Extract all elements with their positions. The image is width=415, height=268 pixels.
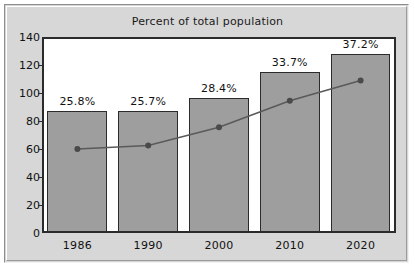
x-axis-tick-label-1986: 1986 <box>63 239 92 252</box>
bar-2020 <box>331 54 391 232</box>
y-axis-tick-mark <box>38 65 43 66</box>
y-axis-tick-label: 40 <box>6 171 40 184</box>
chart-panel: Percent of total population 020406080100… <box>4 4 409 263</box>
y-axis-tick-label: 80 <box>6 115 40 128</box>
y-axis-tick-label: 140 <box>6 31 40 44</box>
y-axis-tick-mark <box>38 121 43 122</box>
chart-title: Percent of total population <box>5 15 410 28</box>
bar-value-label-2010: 33.7% <box>272 56 308 69</box>
y-axis-tick-mark <box>38 177 43 178</box>
y-axis-tick-label: 100 <box>6 87 40 100</box>
y-axis: 020406080100120140 <box>5 5 40 264</box>
bar-2000 <box>189 98 249 232</box>
bar-value-label-2020: 37.2% <box>343 38 379 51</box>
x-axis-tick-label-1990: 1990 <box>134 239 163 252</box>
x-axis-tick-label-2020: 2020 <box>346 239 375 252</box>
bar-value-label-2000: 28.4% <box>201 82 237 95</box>
bar-1986 <box>47 111 107 232</box>
x-axis-tick-label-2010: 2010 <box>275 239 304 252</box>
y-axis-tick-label: 120 <box>6 59 40 72</box>
y-axis-tick-mark <box>38 93 43 94</box>
y-axis-tick-mark <box>38 205 43 206</box>
x-axis-tick-label-2000: 2000 <box>204 239 233 252</box>
bar-value-label-1986: 25.8% <box>59 95 95 108</box>
y-axis-tick-label: 60 <box>6 143 40 156</box>
y-axis-tick-label: 0 <box>6 227 40 240</box>
bar-1990 <box>118 111 178 232</box>
chart-canvas: Percent of total population 020406080100… <box>5 5 410 264</box>
bar-2010 <box>260 72 320 232</box>
bar-value-label-1990: 25.7% <box>130 95 166 108</box>
y-axis-tick-label: 20 <box>6 199 40 212</box>
y-axis-tick-mark <box>38 149 43 150</box>
